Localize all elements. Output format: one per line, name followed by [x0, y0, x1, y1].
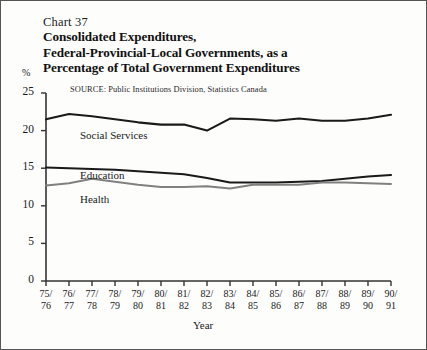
y-axis-tick-label: 10: [12, 198, 34, 210]
series-label-education: Education: [80, 169, 125, 181]
y-axis-tick-label: 20: [12, 123, 34, 135]
chart-figure: Chart 37 Consolidated Expenditures, Fede…: [0, 0, 427, 350]
x-axis-title: Year: [193, 319, 213, 331]
y-axis-tick-label: 15: [12, 160, 34, 172]
y-axis-tick-label: 25: [12, 85, 34, 97]
y-axis-tick-label: 5: [12, 235, 34, 247]
x-axis-tick-label: 90/91: [378, 288, 404, 312]
x-axis-tick-label-bottom: 91: [378, 300, 404, 312]
y-axis-tick-label: 0: [12, 273, 34, 285]
series-label-social-services: Social Services: [80, 129, 148, 141]
x-axis-tick-label-top: 90/: [378, 288, 404, 300]
series-label-health: Health: [80, 193, 109, 205]
